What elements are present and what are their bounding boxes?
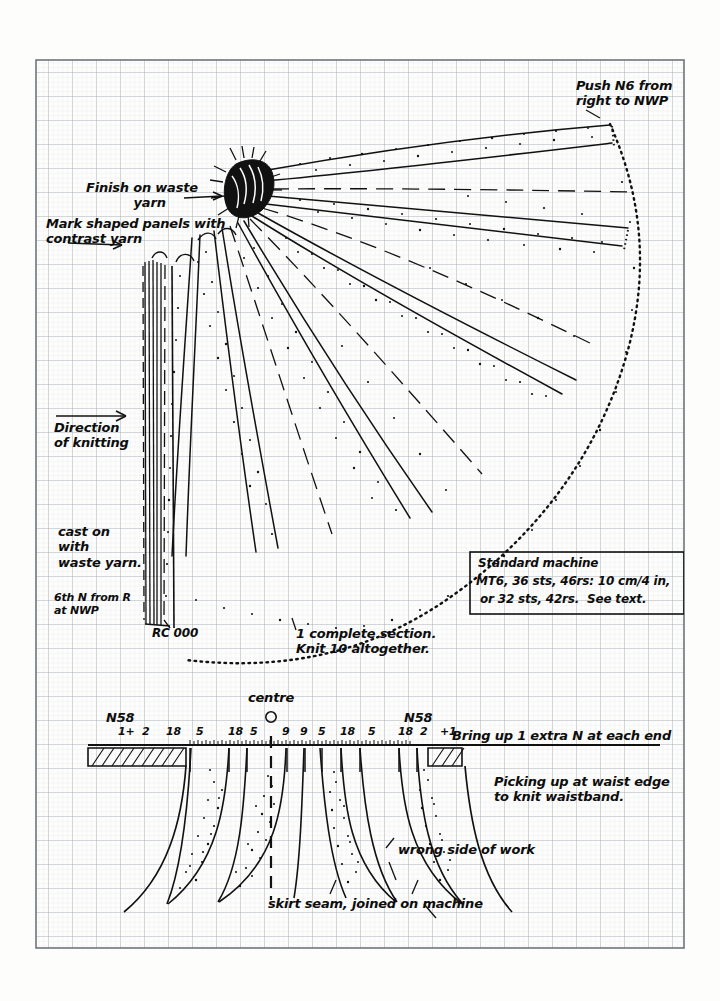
tension-line1: Standard machine [478,556,598,570]
tension-line2: MT6, 36 sts, 46rs: 10 cm/4 in, [476,574,670,588]
needle-count: +1 [440,726,456,739]
section-note-label: 1 complete section. Knit 10 altogether. [296,626,436,657]
needle-left-label: N58 [106,710,134,725]
needle-count: 18 [398,726,413,739]
finish-waste-label: Finish on waste yarn [86,180,198,211]
needle-count: 2 [142,726,149,739]
direction-label: Direction of knitting [54,420,129,451]
diagram-canvas [0,0,720,1001]
push-needle-label: Push N6 from right to NWP [576,78,672,109]
needle-count: 18 [340,726,355,739]
needle-count: 18 [166,726,181,739]
needle-count-row: 1+2185185995185182+1 [0,726,720,742]
needle-count: 18 [228,726,243,739]
needle-count: 5 [196,726,203,739]
picking-up-label: Picking up at waist edge to knit waistba… [494,774,670,805]
needle-count: 5 [318,726,325,739]
needle-count: 1+ [118,726,134,739]
needle-count: 9 [300,726,307,739]
centre-label: centre [248,690,294,705]
needle-count: 9 [282,726,289,739]
cast-on-label: cast on with waste yarn. [58,524,142,570]
tension-line3: or 32 sts, 42rs. See text. [480,592,646,606]
mark-panels-label: Mark shaped panels with contrast yarn [46,216,225,247]
row-counter-label: RC 000 [152,626,198,640]
needle-right-label: N58 [404,710,432,725]
sixth-needle-label: 6th N from R at NWP [54,592,131,618]
wrong-side-label: wrong side of work [398,842,535,857]
needle-count: 2 [420,726,427,739]
needle-count: 5 [250,726,257,739]
skirt-seam-label: skirt seam, joined on machine [268,896,483,911]
diagram-page: Push N6 from right to NWP Finish on wast… [0,0,720,1001]
needle-count: 5 [368,726,375,739]
